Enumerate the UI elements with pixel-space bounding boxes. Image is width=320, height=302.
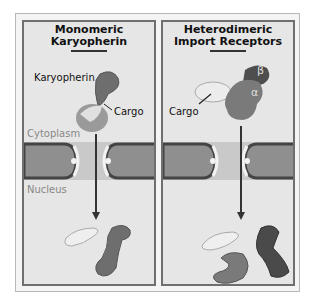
karyopherin-label: Karyopherin bbox=[34, 72, 95, 83]
nuclear-membrane-right bbox=[106, 144, 156, 178]
alpha-label: α bbox=[251, 86, 258, 99]
nuclear-membrane-left bbox=[163, 144, 215, 178]
panel-illustration bbox=[24, 22, 156, 286]
panel-illustration bbox=[163, 22, 295, 286]
nuclear-membrane-right bbox=[245, 144, 295, 178]
beta-label: β bbox=[257, 64, 264, 77]
karyopherin-shape bbox=[95, 72, 119, 106]
cargo-label: Cargo bbox=[169, 106, 199, 117]
released-karyopherin bbox=[96, 225, 131, 276]
released-alpha bbox=[213, 253, 248, 284]
panel-heterodimeric-import-receptors: Heterodimeric Import Receptors α β Cargo bbox=[161, 20, 295, 286]
cargo-label: Cargo bbox=[114, 106, 144, 117]
cytoplasm-label: Cytoplasm bbox=[27, 128, 80, 139]
nucleus-label: Nucleus bbox=[27, 184, 67, 195]
panel-monomeric-karyopherin: Monomeric Karyopherin Karyopherin Cargo … bbox=[22, 20, 156, 286]
released-cargo bbox=[202, 232, 239, 250]
released-cargo bbox=[65, 228, 98, 246]
nuclear-membrane-left bbox=[24, 144, 76, 178]
released-beta bbox=[256, 226, 289, 278]
